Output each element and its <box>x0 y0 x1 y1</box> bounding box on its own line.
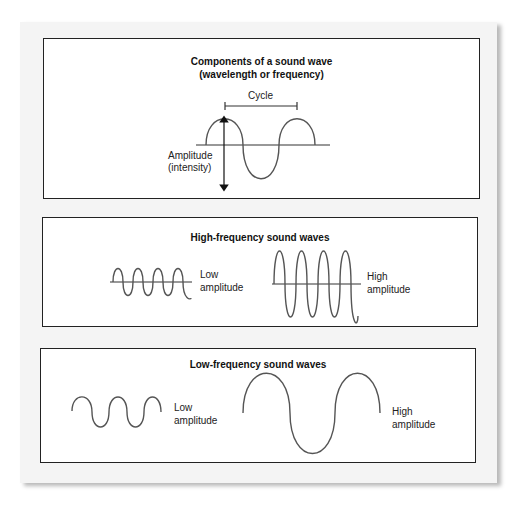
hf-high-amplitude-label-line2: amplitude <box>367 283 410 296</box>
lf-low-amplitude-label-line2: amplitude <box>174 414 217 427</box>
hf-high-amplitude-label-line1: High <box>367 270 388 283</box>
panel-components: Components of a sound wave (wavelength o… <box>43 38 480 199</box>
components-title-line1: Components of a sound wave <box>44 55 479 68</box>
cycle-label: Cycle <box>248 89 273 102</box>
panel-high-frequency: High-frequency sound waves <box>42 217 478 327</box>
high-frequency-title: High-frequency sound waves <box>43 231 477 244</box>
components-title-line2: (wavelength or frequency) <box>44 68 479 81</box>
lf-high-amplitude-label-line1: High <box>392 405 413 418</box>
low-frequency-title: Low-frequency sound waves <box>41 358 475 371</box>
amplitude-label-line2: (intensity) <box>168 161 211 174</box>
hf-low-amplitude-label-line2: amplitude <box>200 281 243 294</box>
lf-low-amplitude-label-line1: Low <box>174 401 192 414</box>
hf-low-amplitude-label-line1: Low <box>200 268 218 281</box>
lf-high-amplitude-label-line2: amplitude <box>392 418 435 431</box>
